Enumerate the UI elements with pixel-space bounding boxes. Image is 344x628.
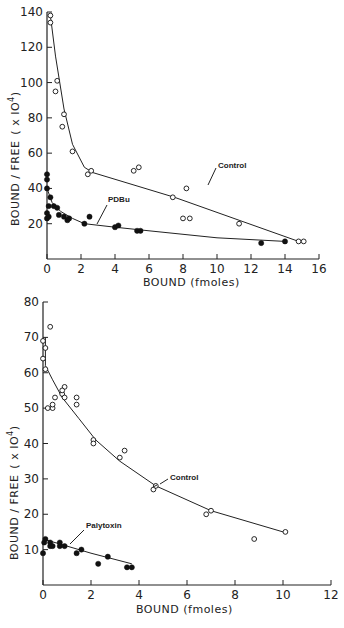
fit-line-pdbu <box>47 188 285 241</box>
chart1-y-axis-label: BOUND / FREE( x IO4) <box>7 92 22 226</box>
data-point-control <box>117 455 122 460</box>
data-point-control <box>48 324 53 329</box>
chart2-control-pointer-arrow <box>153 479 168 487</box>
y-tick-label: 20 <box>24 507 39 521</box>
x-tick-label: 0 <box>43 262 51 276</box>
chart2-palytoxin-pointer-arrow <box>70 530 84 544</box>
chart2-fit-lines <box>43 337 283 563</box>
fit-line-control <box>50 16 298 242</box>
chart1-control-pointer-arrow <box>208 168 216 185</box>
y-tick-label: 40 <box>28 181 43 195</box>
data-point-control <box>48 20 53 25</box>
data-point-polytoxin <box>129 565 134 570</box>
data-point-pdbu <box>44 172 49 177</box>
data-point-pdbu <box>87 214 92 219</box>
data-point-polytoxin <box>124 565 129 570</box>
data-point-control <box>122 448 127 453</box>
x-tick-label: 6 <box>183 588 191 602</box>
data-point-control <box>204 512 209 517</box>
y-tick-label: 80 <box>24 295 39 309</box>
x-tick-label: 8 <box>179 262 187 276</box>
data-point-pdbu <box>116 223 121 228</box>
y-tick-label: 20 <box>28 217 43 231</box>
data-point-polytoxin <box>57 544 62 549</box>
data-point-pdbu <box>56 212 61 217</box>
chart1-annotation-pdbu: PDBu <box>108 195 130 204</box>
data-point-polytoxin <box>40 551 45 556</box>
data-point-control <box>62 112 67 117</box>
data-point-control <box>181 216 186 221</box>
x-tick-label: 10 <box>209 262 224 276</box>
x-tick-label: 14 <box>277 262 292 276</box>
data-point-control <box>91 441 96 446</box>
data-point-pdbu <box>44 177 49 182</box>
data-point-polytoxin <box>74 551 79 556</box>
binding-plots: 024681012141620406080100120140 BOUND / F… <box>0 0 344 628</box>
data-point-control <box>74 395 79 400</box>
x-tick-label: 10 <box>275 588 290 602</box>
chart2-y-axis-label: BOUND / FREE( x IO4) <box>6 426 21 560</box>
chart2-annotation-control: Control <box>170 473 198 482</box>
data-point-control <box>48 13 53 18</box>
chart2-data-points <box>40 324 287 570</box>
y-tick-label: 80 <box>28 111 43 125</box>
y-tick-label: 50 <box>24 401 39 415</box>
data-point-control <box>55 78 60 83</box>
data-point-pdbu <box>55 205 60 210</box>
y-tick-label: 100 <box>20 76 43 90</box>
data-point-control <box>136 165 141 170</box>
fit-line-control <box>45 337 283 532</box>
x-tick-label: 12 <box>243 262 258 276</box>
x-tick-label: 12 <box>323 588 338 602</box>
y-tick-label: 60 <box>24 366 39 380</box>
chart1-data-points <box>44 13 306 246</box>
x-tick-label: 8 <box>231 588 239 602</box>
data-point-control <box>43 367 48 372</box>
data-point-pdbu <box>82 221 87 226</box>
chart1-pdbu-pointer-arrow <box>97 205 107 224</box>
y-tick-label: 60 <box>28 146 43 160</box>
data-point-polytoxin <box>79 547 84 552</box>
data-point-control <box>252 537 257 542</box>
data-point-control <box>301 239 306 244</box>
y-tick-label: 30 <box>24 472 39 486</box>
data-point-control <box>74 402 79 407</box>
chart2-axes: 0246810121020304050607080 <box>24 295 339 602</box>
data-point-polytoxin <box>105 554 110 559</box>
data-point-pdbu <box>46 204 51 209</box>
data-point-control <box>170 195 175 200</box>
chart2-annotation-palytoxin: Palytoxin <box>86 521 122 530</box>
chart1-fit-lines <box>47 16 299 242</box>
data-point-pdbu <box>46 214 51 219</box>
x-tick-label: 6 <box>145 262 153 276</box>
y-tick-label: 40 <box>24 437 39 451</box>
data-point-control <box>53 89 58 94</box>
data-point-pdbu <box>259 241 264 246</box>
data-point-control <box>53 395 58 400</box>
fit-line-polytoxin <box>43 539 132 564</box>
data-point-pdbu <box>44 186 49 191</box>
data-point-control <box>131 168 136 173</box>
data-point-control <box>296 239 301 244</box>
chart1-annotation-control: Control <box>218 161 246 170</box>
data-point-polytoxin <box>62 544 67 549</box>
data-point-pdbu <box>138 228 143 233</box>
y-tick-label: 10 <box>24 543 39 557</box>
data-point-polytoxin <box>43 536 48 541</box>
chart-pdbu-scatchard: 024681012141620406080100120140 BOUND / F… <box>7 5 327 289</box>
data-point-control <box>41 356 46 361</box>
data-point-pdbu <box>67 216 72 221</box>
data-point-pdbu <box>282 239 287 244</box>
x-tick-label: 16 <box>311 262 326 276</box>
x-tick-label: 0 <box>39 588 47 602</box>
data-point-pdbu <box>48 195 53 200</box>
x-tick-label: 4 <box>111 262 119 276</box>
data-point-control <box>70 149 75 154</box>
data-point-control <box>45 406 50 411</box>
y-tick-label: 140 <box>20 5 43 19</box>
data-point-control <box>184 186 189 191</box>
data-point-control <box>62 395 67 400</box>
y-tick-label: 70 <box>24 330 39 344</box>
x-tick-label: 2 <box>77 262 85 276</box>
data-point-polytoxin <box>50 544 55 549</box>
